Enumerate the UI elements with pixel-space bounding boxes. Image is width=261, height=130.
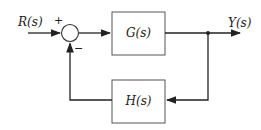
minus-sign: − [74, 42, 83, 55]
feedback-path-right [167, 33, 208, 100]
summing-junction [62, 25, 79, 42]
block-diagram: R(s) + − G(s) Y(s) H(s) [0, 0, 261, 130]
feedback-block-label: H(s) [125, 94, 152, 108]
input-label: R(s) [17, 15, 43, 29]
plus-sign: + [54, 14, 63, 27]
forward-block-label: G(s) [126, 26, 151, 40]
output-label: Y(s) [228, 16, 252, 30]
